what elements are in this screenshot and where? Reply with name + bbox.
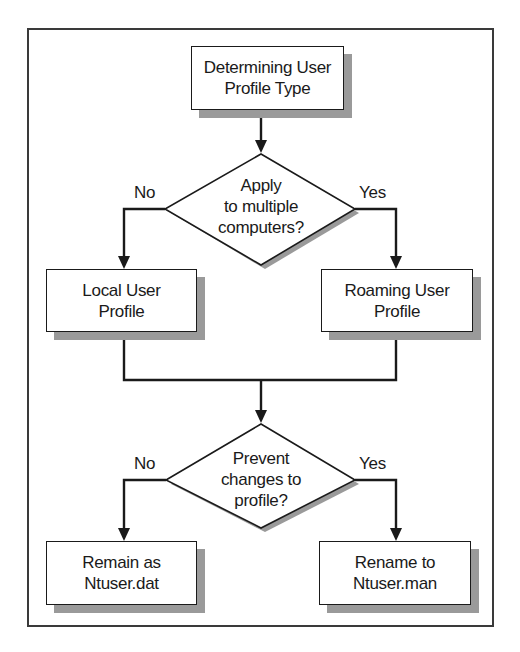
rename-label: Rename to Ntuser.man — [353, 552, 437, 594]
start-node-label: Determining User Profile Type — [204, 57, 331, 99]
remain-node: Remain as Ntuser.dat — [46, 541, 197, 605]
flowchart-canvas: Determining User Profile Type Apply to m… — [0, 0, 520, 652]
decision2-yes-label: Yes — [359, 454, 386, 474]
start-node: Determining User Profile Type — [191, 46, 344, 110]
remain-label: Remain as Ntuser.dat — [82, 552, 161, 594]
rename-node: Rename to Ntuser.man — [319, 541, 471, 605]
roaming-profile-node: Roaming User Profile — [321, 269, 473, 332]
decision1-label: Apply to multiple computers? — [191, 175, 331, 238]
local-profile-label: Local User Profile — [82, 280, 160, 322]
roaming-profile-label: Roaming User Profile — [344, 280, 449, 322]
decision2-label: Prevent changes to profile? — [191, 448, 331, 511]
decision1-yes-label: Yes — [359, 183, 386, 203]
decision2-no-label: No — [134, 454, 155, 474]
local-profile-node: Local User Profile — [46, 269, 197, 332]
decision1-no-label: No — [134, 183, 155, 203]
